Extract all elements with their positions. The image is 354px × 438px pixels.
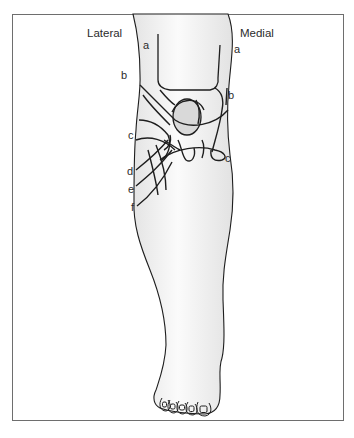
label-lateral-c: c: [128, 130, 134, 141]
label-medial-a: a: [234, 44, 240, 55]
lateral-heading: Lateral: [87, 28, 122, 40]
label-lateral-a: a: [143, 40, 149, 51]
label-lateral-d: d: [127, 166, 133, 177]
label-lateral-e: e: [128, 184, 134, 195]
leg-diagram: [0, 0, 354, 438]
medial-heading: Medial: [240, 28, 274, 40]
label-lateral-b: b: [121, 70, 127, 81]
label-medial-b: b: [228, 90, 234, 101]
label-medial-c: c: [225, 153, 231, 164]
label-lateral-f: f: [131, 202, 134, 213]
